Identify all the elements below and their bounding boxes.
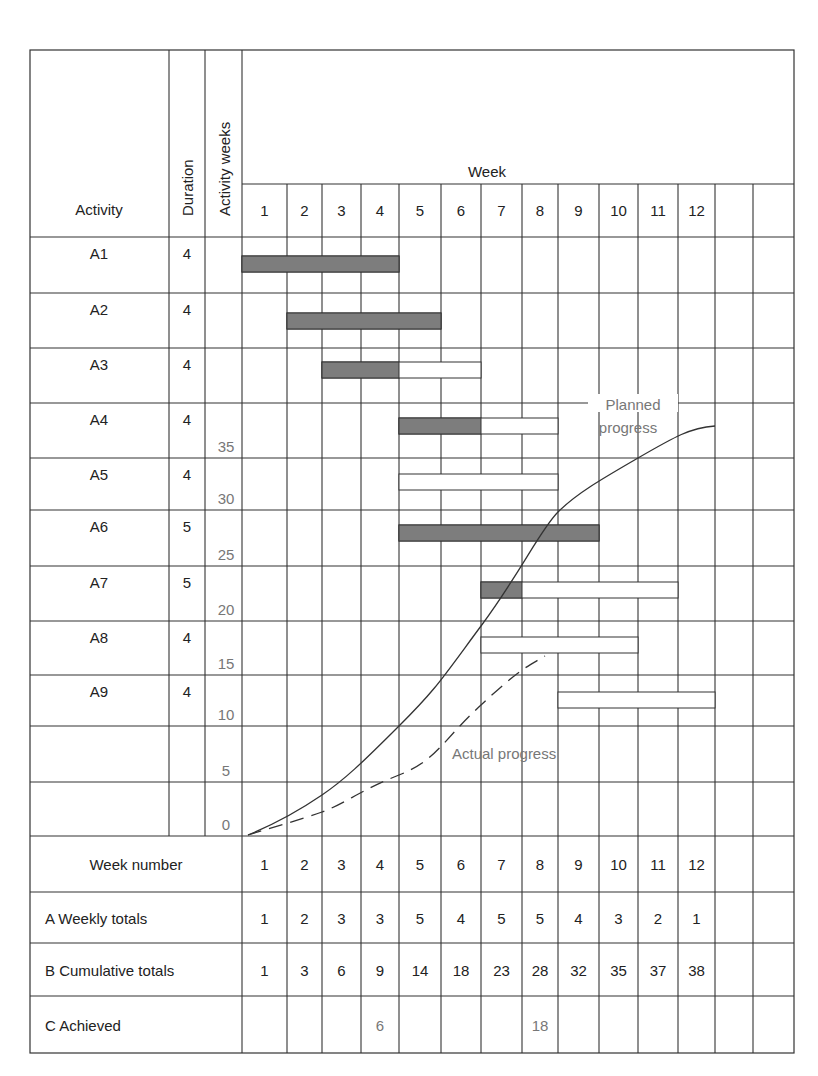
y-axis-tick: 5 — [222, 762, 230, 779]
activity-bar-progress — [287, 313, 441, 329]
activity-bar-progress — [242, 256, 399, 272]
activity-name: A3 — [90, 356, 108, 373]
activity-name: A4 — [90, 411, 108, 428]
activity-duration: 4 — [183, 466, 191, 483]
y-axis-tick: 30 — [218, 490, 235, 507]
week-number-header: 10 — [610, 202, 627, 219]
week-number-header: 3 — [337, 202, 345, 219]
planned-progress-label-2: progress — [599, 419, 657, 436]
summary-cell: 3 — [337, 910, 345, 927]
summary-cell: 14 — [412, 962, 429, 979]
summary-cell: 4 — [574, 910, 582, 927]
y-axis-tick: 0 — [222, 816, 230, 833]
activity-name: A6 — [90, 518, 108, 535]
summary-cell: 9 — [376, 962, 384, 979]
y-axis-tick: 10 — [218, 706, 235, 723]
summary-row-label: A Weekly totals — [45, 910, 147, 927]
summary-cell: 11 — [650, 856, 666, 873]
summary-cell: 23 — [493, 962, 510, 979]
activity-duration: 4 — [183, 629, 191, 646]
summary-cell: 10 — [610, 856, 627, 873]
activity-header: Activity — [75, 201, 123, 218]
activity-duration: 4 — [183, 411, 191, 428]
summary-cell: 7 — [497, 856, 505, 873]
activity-bar-progress — [322, 362, 399, 378]
week-number-header: 4 — [376, 202, 384, 219]
summary-cell: 6 — [457, 856, 465, 873]
activity-bars — [242, 256, 715, 708]
planned-progress-label: Planned — [605, 396, 660, 413]
summary-cell: 1 — [260, 962, 268, 979]
summary-cell: 3 — [614, 910, 622, 927]
activity-bar — [399, 474, 558, 490]
gantt-progress-chart: PlannedprogressActual progress Activity … — [0, 0, 818, 1076]
summary-cell: 35 — [610, 962, 627, 979]
summary-cell: 6 — [376, 1017, 384, 1034]
summary-cell: 9 — [574, 856, 582, 873]
summary-cell: 2 — [654, 910, 662, 927]
activity-bar — [558, 692, 715, 708]
week-number-header: 1 — [260, 202, 268, 219]
grid-lines — [30, 50, 794, 1053]
summary-cell: 8 — [536, 856, 544, 873]
y-axis-tick: 25 — [218, 546, 235, 563]
week-number-header: 8 — [536, 202, 544, 219]
activity-duration: 4 — [183, 356, 191, 373]
activity-name: A7 — [90, 574, 108, 591]
summary-cell: 38 — [688, 962, 705, 979]
actual-progress-label: Actual progress — [452, 745, 556, 762]
activity-duration: 5 — [183, 574, 191, 591]
summary-cell: 4 — [457, 910, 465, 927]
week-number-header: 11 — [650, 202, 666, 219]
activity-duration: 5 — [183, 518, 191, 535]
activity-duration: 4 — [183, 245, 191, 262]
summary-cell: 3 — [300, 962, 308, 979]
activity-name: A8 — [90, 629, 108, 646]
week-header: Week — [468, 163, 507, 180]
summary-cell: 3 — [376, 910, 384, 927]
summary-cell: 32 — [570, 962, 587, 979]
summary-cell: 1 — [260, 856, 268, 873]
activity-name: A5 — [90, 466, 108, 483]
summary-row-label: Week number — [89, 856, 182, 873]
summary-cell: 12 — [688, 856, 705, 873]
activity-name: A9 — [90, 683, 108, 700]
summary-cell: 18 — [453, 962, 470, 979]
summary-cell: 18 — [532, 1017, 549, 1034]
summary-cell: 37 — [650, 962, 667, 979]
y-axis-tick: 15 — [218, 655, 235, 672]
week-number-header: 12 — [688, 202, 705, 219]
summary-cell: 2 — [300, 856, 308, 873]
summary-cell: 3 — [337, 856, 345, 873]
week-number-header: 2 — [300, 202, 308, 219]
summary-row-label: B Cumulative totals — [45, 962, 174, 979]
activity-duration: 4 — [183, 301, 191, 318]
activity-weeks-header: Activity weeks — [216, 122, 233, 216]
week-number-header: 6 — [457, 202, 465, 219]
week-number-header: 7 — [497, 202, 505, 219]
summary-cell: 28 — [532, 962, 549, 979]
week-number-header: 9 — [574, 202, 582, 219]
summary-cell: 4 — [376, 856, 384, 873]
summary-row-label: C Achieved — [45, 1017, 121, 1034]
chart-labels: Activity Duration Activity weeks Week — [75, 122, 506, 218]
activity-bar — [481, 637, 638, 653]
summary-cell: 6 — [337, 962, 345, 979]
activity-bar-progress — [399, 418, 481, 434]
summary-cell: 5 — [497, 910, 505, 927]
summary-cell: 1 — [260, 910, 268, 927]
summary-cell: 5 — [536, 910, 544, 927]
summary-cell: 5 — [416, 856, 424, 873]
y-axis-tick: 20 — [218, 601, 235, 618]
activity-bar-progress — [399, 525, 599, 541]
summary-cell: 5 — [416, 910, 424, 927]
activity-name: A2 — [90, 301, 108, 318]
week-number-header: 5 — [416, 202, 424, 219]
activity-duration: 4 — [183, 683, 191, 700]
duration-header: Duration — [179, 159, 196, 216]
summary-cell: 2 — [300, 910, 308, 927]
table-border — [30, 50, 794, 1053]
y-axis-tick: 35 — [218, 438, 235, 455]
summary-cell: 1 — [692, 910, 700, 927]
activity-name: A1 — [90, 245, 108, 262]
